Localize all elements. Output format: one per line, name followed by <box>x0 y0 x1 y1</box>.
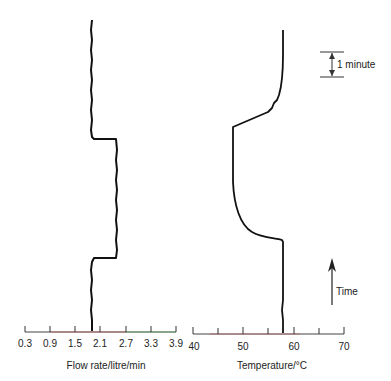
flow-tick-0: 0.3 <box>18 338 32 349</box>
flow-tick-4: 2.7 <box>119 338 133 349</box>
one-minute-scale-bar: 1 minute <box>320 52 376 77</box>
scale-up-arrow-icon <box>329 53 335 59</box>
temp-tick-0: 40 <box>188 341 200 352</box>
temperature-axis: 40 50 60 70 Temperature/°C <box>188 327 350 371</box>
flow-rate-trace <box>91 20 117 331</box>
flow-tick-2: 1.5 <box>68 338 82 349</box>
scale-down-arrow-icon <box>329 70 335 76</box>
scale-label: 1 minute <box>337 59 376 70</box>
chart-canvas: 0.3 0.9 1.5 2.1 2.7 3.3 3.9 Flow rate/li… <box>0 0 391 381</box>
temperature-trace <box>233 30 283 333</box>
flow-tick-6: 3.9 <box>169 338 183 349</box>
temp-tick-1: 50 <box>237 341 249 352</box>
temp-tick-3: 70 <box>338 341 350 352</box>
time-label: Time <box>336 286 358 297</box>
flow-axis-title: Flow rate/litre/min <box>67 360 146 371</box>
flow-tick-1: 0.9 <box>43 338 57 349</box>
flow-tick-5: 3.3 <box>144 338 158 349</box>
flow-tick-3: 2.1 <box>93 338 107 349</box>
temp-tick-2: 60 <box>288 341 300 352</box>
flow-rate-axis: 0.3 0.9 1.5 2.1 2.7 3.3 3.9 Flow rate/li… <box>18 326 183 371</box>
temp-axis-title: Temperature/°C <box>237 360 307 371</box>
time-arrow: Time <box>328 258 358 305</box>
